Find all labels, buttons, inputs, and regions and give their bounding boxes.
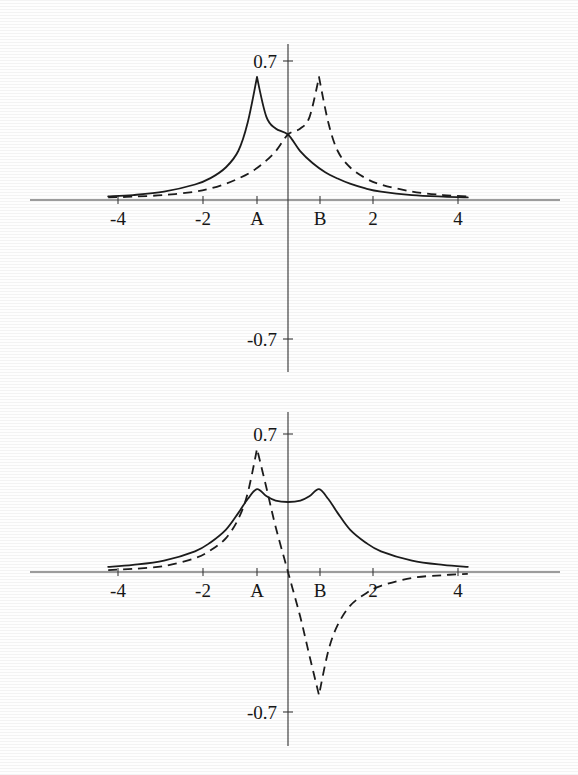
x-axis-label-2: 2 bbox=[368, 580, 378, 601]
x-axis-label-B: B bbox=[314, 580, 327, 601]
x-axis-label-neg4: -4 bbox=[110, 208, 126, 229]
x-axis-label-neg4: -4 bbox=[110, 580, 126, 601]
x-axis-label-4: 4 bbox=[453, 580, 463, 601]
y-axis-label-negative: -0.7 bbox=[247, 702, 277, 723]
top-panel: 0.7 -0.7 -4 -2 A B 2 4 bbox=[0, 0, 578, 390]
y-axis-label-positive: 0.7 bbox=[253, 51, 277, 72]
bottom-panel: 0.7 -0.7 -4 -2 A B 2 4 bbox=[0, 390, 578, 775]
x-axis-label-B: B bbox=[314, 208, 327, 229]
x-axis-label-4: 4 bbox=[453, 208, 463, 229]
x-axis-label-A: A bbox=[250, 208, 264, 229]
top-panel-svg: 0.7 -0.7 -4 -2 A B 2 4 bbox=[0, 0, 578, 390]
x-axis-label-neg2: -2 bbox=[195, 208, 211, 229]
x-axis-label-A: A bbox=[250, 580, 264, 601]
figure-page: 0.7 -0.7 -4 -2 A B 2 4 0.7 -0.7 bbox=[0, 0, 578, 775]
y-axis-label-negative: -0.7 bbox=[247, 329, 277, 350]
x-axis-label-2: 2 bbox=[368, 208, 378, 229]
bottom-panel-svg: 0.7 -0.7 -4 -2 A B 2 4 bbox=[0, 390, 578, 775]
x-axis-label-neg2: -2 bbox=[195, 580, 211, 601]
y-axis-label-positive: 0.7 bbox=[253, 424, 277, 445]
